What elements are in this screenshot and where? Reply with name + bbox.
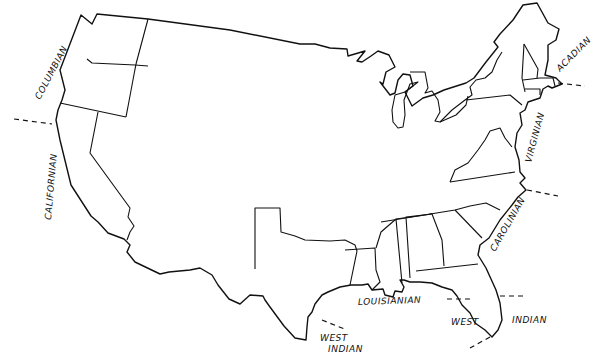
ma-outline (523, 78, 555, 86)
la-ms-border (376, 219, 402, 283)
label-virginian: VIRGINIAN (523, 111, 546, 163)
label-louisianian: LOUISIANIAN (358, 295, 422, 307)
province-map: COLUMBIAN CALIFORNIAN ACADIAN VIRGINIAN … (0, 0, 593, 359)
tn-south-border (381, 203, 500, 222)
label-west-indian-florida-west: WEST (451, 317, 480, 327)
label-carolinian: CAROLINIAN (488, 195, 527, 253)
wa-id-border (136, 19, 148, 64)
ny-pa-border (466, 95, 522, 105)
wa-or-border (87, 59, 148, 66)
michigan-thumb-outline (410, 72, 468, 122)
label-west-indian-florida-east: INDIAN (512, 315, 547, 325)
boundary-florida-keys (470, 337, 490, 348)
boundary-virginian-carolinian (527, 190, 558, 196)
label-acadian: ACADIAN (554, 35, 593, 74)
label-californian: CALIFORNIAN (43, 153, 59, 220)
ms-al-border (396, 214, 432, 278)
label-west-indian-gulf-line1: WEST (320, 333, 349, 343)
boundary-columbian-californian (14, 119, 52, 124)
nc-va-border (450, 172, 515, 182)
al-ga-border (432, 214, 444, 266)
or-id-border (126, 64, 136, 117)
texas-panhandle-border (255, 208, 357, 285)
label-west-indian-gulf-line2: INDIAN (328, 344, 363, 354)
us-outline-map: COLUMBIAN CALIFORNIAN ACADIAN VIRGINIAN … (0, 0, 593, 359)
us-coastline-outline (56, 3, 562, 340)
lake-erie-shoreline (440, 52, 502, 122)
ga-sc-border (455, 210, 482, 238)
or-ca-border (60, 103, 126, 117)
vt-nh-border (524, 44, 538, 78)
ct-ri-border (525, 89, 540, 95)
ny-vt-border (522, 44, 525, 92)
ga-fl-border (416, 264, 478, 271)
boundary-louisianian-west-indian-texas (322, 320, 347, 330)
